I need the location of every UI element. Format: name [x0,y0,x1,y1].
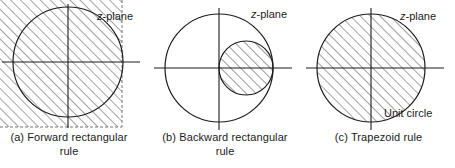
z-plane-label-a: z-plane [96,10,133,22]
caption-a: (a) Forward rectangular rule [0,130,152,158]
caption-b-line2: rule [152,144,298,158]
caption-c: (c) Trapezoid rule [304,130,455,144]
z-plane-label-c-suffix: -plane [406,10,437,22]
panel-c-svg: z-plane Unit circle [304,0,455,132]
z-plane-label-c: z-plane [399,10,436,22]
unit-circle-label-c: Unit circle [384,107,432,119]
caption-a-line1: (a) Forward rectangular [0,130,138,144]
stability-regions-figure: z-plane (a) Forward rectangular rule [0,0,455,168]
panel-forward-rectangular: z-plane (a) Forward rectangular rule [0,0,152,168]
caption-c-line1: (c) Trapezoid rule [304,130,453,144]
caption-b: (b) Backward rectangular rule [152,130,304,158]
panel-a-svg: z-plane [0,0,152,132]
z-plane-label-a-suffix: -plane [103,10,134,22]
panel-b-svg: z-plane [152,0,304,132]
panel-trapezoid: z-plane Unit circle (c) Trapezoid rule [304,0,455,168]
panel-c-diagram: z-plane Unit circle [304,0,455,132]
panel-b-diagram: z-plane [152,0,304,132]
z-plane-label-b-suffix: -plane [257,8,288,20]
caption-a-line2: rule [0,144,138,158]
panel-a-diagram: z-plane [0,0,152,132]
panel-backward-rectangular: z-plane (b) Backward rectangular rule [152,0,304,168]
z-plane-label-b: z-plane [250,8,287,20]
caption-b-line1: (b) Backward rectangular [152,130,298,144]
